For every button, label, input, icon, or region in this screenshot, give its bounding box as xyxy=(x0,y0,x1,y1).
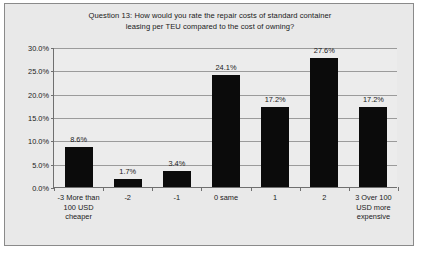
y-axis-label: 25.0% xyxy=(28,67,49,76)
bar-value-label: 8.6% xyxy=(70,135,87,144)
x-axis-label: -1 xyxy=(154,193,200,203)
x-axis-tick xyxy=(300,187,301,191)
chart-title: Question 13: How would you rate the repa… xyxy=(35,11,385,32)
bar-value-label: 1.7% xyxy=(119,167,136,176)
y-axis-label: 20.0% xyxy=(28,90,49,99)
x-axis-label: -3 More than 100 USD cheaper xyxy=(56,193,102,222)
x-axis-label: 2 xyxy=(301,193,347,203)
bar[interactable] xyxy=(359,107,387,187)
bar-group: 17.2% xyxy=(349,48,398,187)
bar[interactable] xyxy=(114,179,142,187)
x-axis-tick xyxy=(349,187,350,191)
chart-title-line-2: leasing per TEU compared to the cost of … xyxy=(35,22,385,33)
x-axis-label: -2 xyxy=(105,193,151,203)
x-axis-tick xyxy=(398,187,399,191)
x-axis-tick xyxy=(103,187,104,191)
y-axis-label: 10.0% xyxy=(28,137,49,146)
bar[interactable] xyxy=(163,171,191,187)
bar[interactable] xyxy=(212,75,240,187)
x-axis-label: 3 Over 100 USD more expensive xyxy=(350,193,396,222)
bar-value-label: 17.2% xyxy=(265,95,286,104)
bar-value-label: 27.6% xyxy=(314,46,335,55)
bar[interactable] xyxy=(261,107,289,187)
bar[interactable] xyxy=(310,58,338,187)
x-axis-tick xyxy=(152,187,153,191)
bar-value-label: 24.1% xyxy=(216,63,237,72)
bar-group: 8.6% xyxy=(54,48,103,187)
bar-group: 1.7% xyxy=(103,48,152,187)
x-axis-label: 0 same xyxy=(203,193,249,203)
bar-value-label: 3.4% xyxy=(168,159,185,168)
x-axis-label: 1 xyxy=(252,193,298,203)
y-axis-label: 15.0% xyxy=(28,114,49,123)
plot-area: 0.0%5.0%10.0%15.0%20.0%25.0%30.0% 8.6%1.… xyxy=(53,48,397,188)
chart-title-line-1: Question 13: How would you rate the repa… xyxy=(35,11,385,22)
bar-group: 27.6% xyxy=(300,48,349,187)
y-axis-label: 0.0% xyxy=(32,184,49,193)
bar-group: 17.2% xyxy=(251,48,300,187)
y-axis-label: 30.0% xyxy=(28,44,49,53)
bar-group: 24.1% xyxy=(201,48,250,187)
y-axis-label: 5.0% xyxy=(32,160,49,169)
bar[interactable] xyxy=(65,147,93,187)
bar-group: 3.4% xyxy=(152,48,201,187)
x-axis-tick xyxy=(54,187,55,191)
x-axis-tick xyxy=(251,187,252,191)
bar-value-label: 17.2% xyxy=(363,95,384,104)
chart-frame: Question 13: How would you rate the repa… xyxy=(4,3,414,246)
x-axis-tick xyxy=(201,187,202,191)
